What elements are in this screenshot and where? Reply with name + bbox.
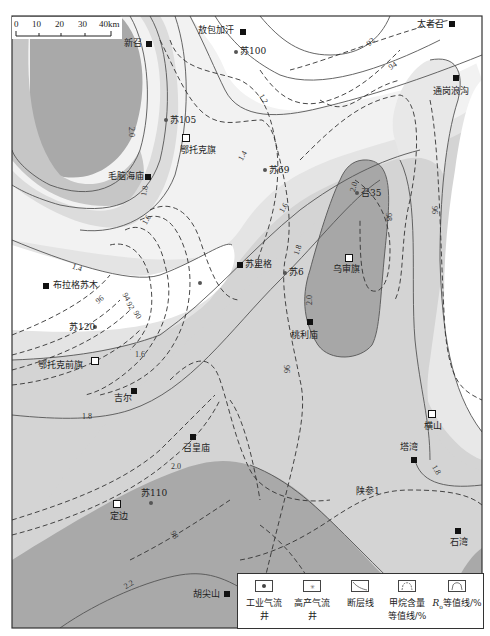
legend-item-industrial-well: 工业气流井 bbox=[242, 580, 286, 622]
well-label-su6: 苏6 bbox=[289, 268, 304, 277]
legend-item-methane-contour: 甲烷含量 等值线/% bbox=[386, 580, 428, 622]
legend-item-fault-line: 断层线 bbox=[340, 580, 380, 609]
place-label-hujianshan: 胡尖山 bbox=[193, 590, 220, 599]
county-marker-dingbian bbox=[113, 500, 121, 508]
scale-ruler bbox=[15, 30, 115, 38]
county-marker-etuokeqi bbox=[182, 134, 190, 142]
scale-tick-40km: 40km bbox=[99, 19, 120, 29]
ro-label-2-0: 2.0 bbox=[171, 463, 181, 471]
city-marker-maonaohaimiao bbox=[145, 174, 151, 180]
place-label-xinzhao: 新召 bbox=[124, 39, 142, 48]
city-marker-sulige bbox=[237, 262, 243, 268]
city-marker-tawan bbox=[411, 457, 417, 463]
place-label-tawan: 塔湾 bbox=[400, 443, 418, 452]
scale-tick-30: 30 bbox=[78, 19, 87, 29]
well-label-zhao35: 召35 bbox=[361, 189, 381, 198]
ro-label-2-0: 2.0 bbox=[127, 127, 135, 137]
ro-label-1-8: 1.8 bbox=[140, 185, 150, 196]
high-yield-gas-well-icon: ✳ bbox=[303, 580, 321, 592]
gas-well-icon bbox=[198, 281, 202, 285]
well-label-su120: 苏120 bbox=[69, 323, 95, 332]
well-label-su100: 苏100 bbox=[240, 47, 266, 56]
city-marker-shiwan bbox=[455, 528, 461, 534]
ro-label-1-8: 1.8 bbox=[82, 413, 92, 421]
gas-well-icon bbox=[283, 271, 287, 275]
scale-tick-10: 10 bbox=[32, 19, 41, 29]
gas-well-icon bbox=[234, 50, 238, 54]
place-label-etuokeqi: 鄂托克旗 bbox=[180, 146, 216, 155]
ro-label-2-0: 2.0 bbox=[306, 295, 314, 305]
well-label-shancan1: 陕参1 bbox=[356, 487, 380, 496]
city-marker-bulagesumu bbox=[43, 283, 49, 289]
place-label-zhaohuangmiao: 召皇庙 bbox=[183, 444, 210, 453]
legend-item-ro-contour: Ro等值线/% bbox=[432, 580, 482, 610]
methane-label-98: 98 bbox=[384, 213, 392, 221]
methane-contour-icon bbox=[398, 580, 416, 592]
place-label-aobaojiahan: 敖包加汗 bbox=[198, 26, 234, 35]
methane-label-96: 96 bbox=[430, 206, 438, 214]
place-label-tonggang: 通岗浪沟 bbox=[433, 87, 469, 96]
scale-bar: 0 10 20 30 40km bbox=[12, 17, 122, 39]
county-marker-wushenqi bbox=[345, 254, 353, 262]
ro-label-1-6: 1.6 bbox=[135, 351, 145, 359]
legend-item-high-yield-well: ✳ 高产气流井 bbox=[290, 580, 334, 622]
scale-tick-0: 0 bbox=[14, 19, 19, 29]
geologic-contour-map: 0 10 20 30 40km 新召 敖包加汗 太者召 通岗浪沟 鄂托克旗 毛脑… bbox=[0, 0, 490, 636]
city-marker-xinzhao bbox=[146, 41, 152, 47]
place-label-taolimiao: 桃利庙 bbox=[291, 331, 318, 340]
gas-well-icon bbox=[263, 168, 267, 172]
city-marker-hujianshan bbox=[224, 591, 230, 597]
well-label-su105: 苏105 bbox=[170, 116, 196, 125]
place-label-jier: 吉尔 bbox=[114, 394, 132, 403]
place-label-dingbian: 定边 bbox=[110, 512, 128, 521]
gas-well-icon bbox=[164, 118, 168, 122]
place-label-taizhezhao: 太者召 bbox=[417, 20, 444, 29]
county-marker-hengshan bbox=[428, 410, 436, 418]
county-marker-etuokeqianqi bbox=[91, 357, 99, 365]
place-label-maonaohaimiao: 毛脑海庙 bbox=[108, 172, 144, 181]
well-label-su110: 苏110 bbox=[141, 489, 167, 498]
gas-well-icon bbox=[149, 501, 153, 505]
scale-tick-20: 20 bbox=[55, 19, 64, 29]
methane-label-96: 96 bbox=[282, 365, 290, 373]
place-label-bulagesumu: 布拉格苏木 bbox=[53, 281, 98, 290]
place-label-hengshan: 横山 bbox=[424, 422, 442, 431]
place-label-wushenqi: 乌审旗 bbox=[333, 265, 360, 274]
place-label-sulige: 苏里格 bbox=[245, 260, 272, 269]
place-label-etuokeqianqi: 鄂托克前旗 bbox=[38, 361, 83, 370]
map-canvas bbox=[0, 0, 490, 636]
place-label-shiwan: 石湾 bbox=[450, 538, 468, 547]
industrial-gas-well-icon bbox=[255, 580, 273, 592]
city-marker-taizhezhao bbox=[449, 21, 455, 27]
city-marker-tonggang bbox=[453, 75, 459, 81]
map-legend: 工业气流井 ✳ 高产气流井 断层线 甲烷含量 等值线/% Ro等值线/% bbox=[237, 573, 484, 629]
well-label-su69: 苏69 bbox=[269, 166, 289, 175]
ro-contour-icon bbox=[448, 580, 466, 592]
city-marker-zhaohuangmiao bbox=[190, 434, 196, 440]
city-marker-aobaojiahan bbox=[240, 29, 246, 35]
fault-line-icon bbox=[351, 580, 369, 592]
city-marker-taolimiao bbox=[307, 319, 313, 325]
